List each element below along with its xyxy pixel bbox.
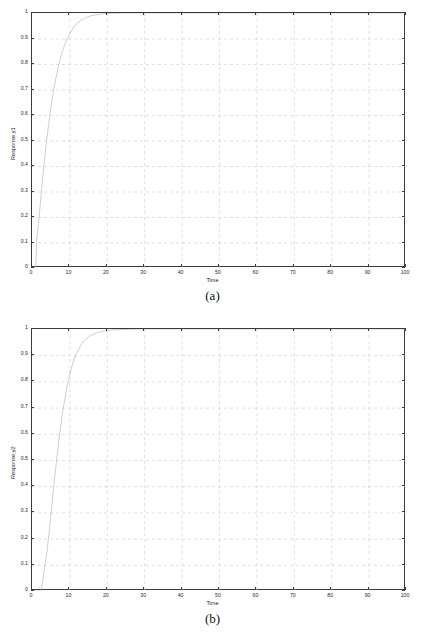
y-tickmark xyxy=(402,114,405,115)
x-tick-label: 10 xyxy=(58,593,78,598)
x-tickmark xyxy=(368,328,369,331)
x-tickmark xyxy=(405,328,406,331)
y-tickmark xyxy=(402,590,405,591)
y-tick-label: 0.7 xyxy=(14,86,28,91)
x-tickmark xyxy=(405,264,406,267)
x-tickmark xyxy=(106,12,107,15)
x-tickmark xyxy=(255,12,256,15)
x-tick-label: 40 xyxy=(171,593,191,598)
x-tick-label: 80 xyxy=(320,593,340,598)
x-tickmark xyxy=(68,328,69,331)
y-tickmark xyxy=(31,242,34,243)
x-tickmark xyxy=(106,328,107,331)
x-tick-label: 30 xyxy=(133,593,153,598)
data-line-y1 xyxy=(32,13,406,268)
y-tickmark xyxy=(31,354,34,355)
y-tick-label: 0.9 xyxy=(14,35,28,40)
y-tickmark xyxy=(31,12,34,13)
y-tickmark xyxy=(402,380,405,381)
x-tickmark xyxy=(293,328,294,331)
y-tickmark xyxy=(402,38,405,39)
data-line-y2 xyxy=(32,329,406,591)
x-tickmark xyxy=(330,587,331,590)
y-tickmark xyxy=(31,216,34,217)
x-tickmark xyxy=(181,264,182,267)
x-tickmark xyxy=(330,264,331,267)
y-tickmark xyxy=(402,459,405,460)
y-tickmark xyxy=(402,165,405,166)
x-tick-label: 60 xyxy=(245,593,265,598)
x-tickmark xyxy=(218,328,219,331)
axes-frame xyxy=(31,328,405,590)
y-tickmark xyxy=(402,328,405,329)
y-tickmark xyxy=(31,380,34,381)
y-tick-label: 0.6 xyxy=(14,111,28,116)
y-tick-label: 0.1 xyxy=(14,239,28,244)
x-tickmark xyxy=(106,587,107,590)
x-tickmark xyxy=(255,264,256,267)
y-tickmark xyxy=(31,590,34,591)
y-tick-label: 0.3 xyxy=(14,188,28,193)
y-tick-label: 0.9 xyxy=(14,351,28,356)
x-tickmark xyxy=(143,587,144,590)
y-tick-label: 0 xyxy=(14,587,28,592)
y-tickmark xyxy=(402,267,405,268)
x-tick-label: 70 xyxy=(283,270,303,275)
y-tickmark xyxy=(31,407,34,408)
x-tickmark xyxy=(143,264,144,267)
x-tickmark xyxy=(330,12,331,15)
subfigure-label: (a) xyxy=(0,289,425,302)
y-tickmark xyxy=(31,328,34,329)
x-tick-label: 100 xyxy=(395,593,415,598)
y-tickmark xyxy=(31,63,34,64)
x-tickmark xyxy=(218,264,219,267)
y-tickmark xyxy=(402,564,405,565)
y-tickmark xyxy=(31,564,34,565)
y-tickmark xyxy=(31,459,34,460)
x-axis-title: Time xyxy=(0,601,425,607)
x-tick-label: 80 xyxy=(320,270,340,275)
y-tickmark xyxy=(402,407,405,408)
x-tickmark xyxy=(368,264,369,267)
x-axis-title: Time xyxy=(0,278,425,284)
x-tickmark xyxy=(68,587,69,590)
x-tickmark xyxy=(181,12,182,15)
y-tickmark xyxy=(31,191,34,192)
x-tickmark xyxy=(218,12,219,15)
x-tickmark xyxy=(218,587,219,590)
y-tick-label: 1 xyxy=(14,9,28,14)
y-tickmark xyxy=(402,63,405,64)
x-tickmark xyxy=(106,264,107,267)
y-tickmark xyxy=(31,511,34,512)
y-tick-label: 0.6 xyxy=(14,430,28,435)
x-tick-label: 10 xyxy=(58,270,78,275)
y-axis-title: Response,y1 xyxy=(11,127,17,160)
x-tickmark xyxy=(368,587,369,590)
x-tickmark xyxy=(181,328,182,331)
y-tickmark xyxy=(402,485,405,486)
y-tick-label: 0.2 xyxy=(14,535,28,540)
y-tickmark xyxy=(402,140,405,141)
x-tick-label: 20 xyxy=(96,593,116,598)
x-tick-label: 0 xyxy=(21,593,41,598)
y-tickmark xyxy=(31,433,34,434)
x-tick-label: 90 xyxy=(358,593,378,598)
y-tickmark xyxy=(31,140,34,141)
y-tickmark xyxy=(402,354,405,355)
x-tickmark xyxy=(405,587,406,590)
x-tickmark xyxy=(255,587,256,590)
y-tickmark xyxy=(402,511,405,512)
y-tickmark xyxy=(402,216,405,217)
plot-area: 00.10.20.30.40.50.60.70.80.9101020304050… xyxy=(0,0,425,319)
x-tick-label: 90 xyxy=(358,270,378,275)
y-tick-label: 0.3 xyxy=(14,508,28,513)
y-tickmark xyxy=(402,89,405,90)
y-tickmark xyxy=(31,538,34,539)
y-tickmark xyxy=(402,242,405,243)
x-tick-label: 30 xyxy=(133,270,153,275)
y-axis-title: Response,y2 xyxy=(11,446,17,479)
x-tickmark xyxy=(405,12,406,15)
y-tick-label: 1 xyxy=(14,325,28,330)
y-tickmark xyxy=(402,538,405,539)
x-tickmark xyxy=(330,328,331,331)
